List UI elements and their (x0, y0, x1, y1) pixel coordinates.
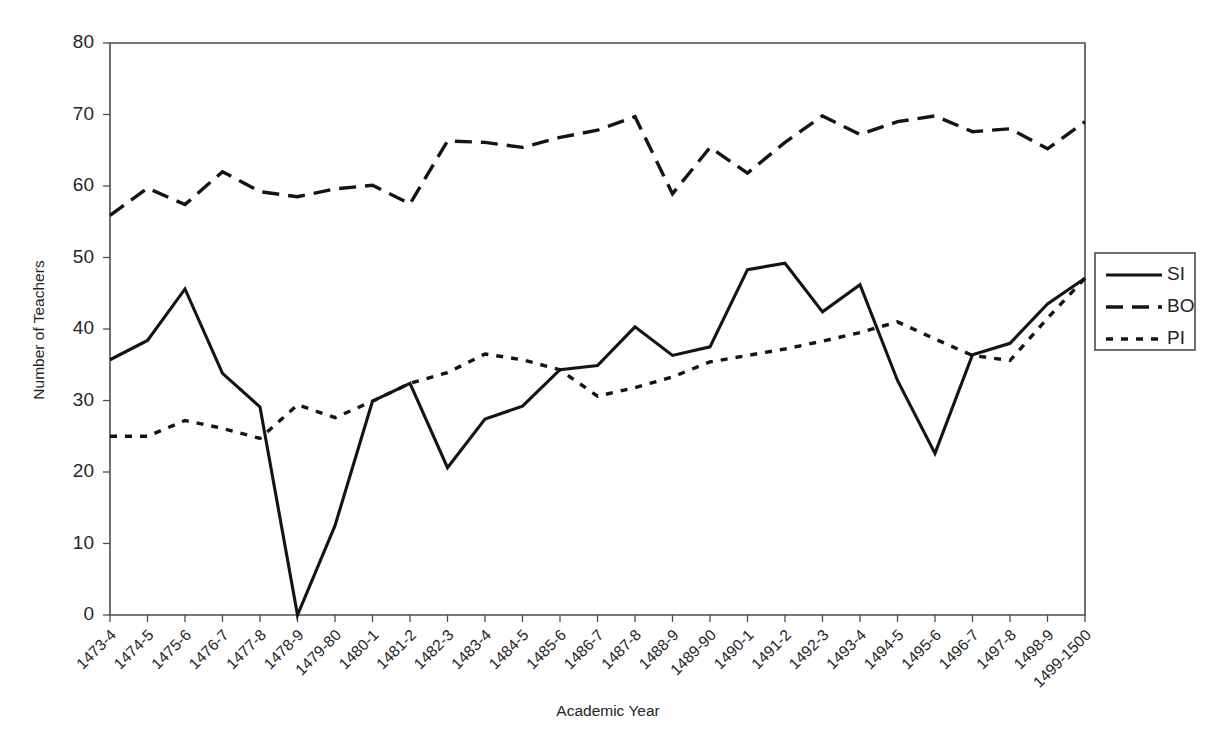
x-axis-tick-label: 1490-1 (710, 626, 756, 672)
legend-label-si: SI (1167, 263, 1185, 284)
x-axis-tick-label: 1495-6 (898, 626, 944, 672)
x-axis-tick-label: 1496-7 (935, 626, 981, 672)
line-chart-svg: 01020304050607080 1473-41474-51475-61476… (0, 0, 1220, 754)
y-axis-tick-label: 80 (73, 31, 94, 52)
x-axis-tick-labels: 1473-41474-51475-61476-71477-81478-91479… (73, 626, 1094, 691)
y-axis-tick-labels: 01020304050607080 (73, 31, 94, 624)
x-axis-tick-label: 1484-5 (485, 626, 531, 672)
x-axis-tick-label: 1482-3 (410, 626, 456, 672)
x-axis-tick-marks (110, 615, 1085, 622)
legend-label-pi: PI (1167, 327, 1185, 348)
legend-label-bo: BO (1167, 295, 1194, 316)
x-axis-tick-label: 1475-6 (148, 626, 194, 672)
x-axis-tick-label: 1494-5 (860, 626, 906, 672)
x-axis-tick-label: 1481-2 (373, 626, 419, 672)
x-axis-tick-label: 1487-8 (598, 626, 644, 672)
x-axis-tick-label: 1491-2 (748, 626, 794, 672)
y-axis-tick-label: 30 (73, 389, 94, 410)
y-axis-tick-label: 70 (73, 103, 94, 124)
y-axis-tick-label: 60 (73, 174, 94, 195)
legend: SIBOPI (1095, 253, 1195, 350)
x-axis-tick-label: 1473-4 (73, 626, 119, 672)
x-axis-title: Academic Year (556, 702, 659, 719)
y-axis-tick-label: 0 (83, 603, 94, 624)
chart-figure: 01020304050607080 1473-41474-51475-61476… (0, 0, 1220, 754)
y-axis-title: Number of Teachers (30, 260, 47, 400)
x-axis-tick-label: 1492-3 (785, 626, 831, 672)
series-line-bo (110, 116, 1085, 215)
series-line-pi (110, 278, 1085, 438)
x-axis-tick-label: 1474-5 (110, 626, 156, 672)
y-axis-tick-marks (103, 43, 110, 615)
x-axis-tick-label: 1486-7 (560, 626, 606, 672)
y-axis-tick-label: 50 (73, 246, 94, 267)
y-axis-tick-label: 10 (73, 532, 94, 553)
x-axis-tick-label: 1483-4 (448, 626, 494, 672)
x-axis-tick-label: 1493-4 (823, 626, 869, 672)
x-axis-tick-label: 1477-8 (223, 626, 269, 672)
x-axis-tick-label: 1485-6 (523, 626, 569, 672)
x-axis-tick-label: 1497-8 (973, 626, 1019, 672)
y-axis-tick-label: 40 (73, 317, 94, 338)
x-axis-tick-label: 1480-1 (335, 626, 381, 672)
y-axis-tick-label: 20 (73, 460, 94, 481)
x-axis-tick-label: 1476-7 (185, 626, 231, 672)
